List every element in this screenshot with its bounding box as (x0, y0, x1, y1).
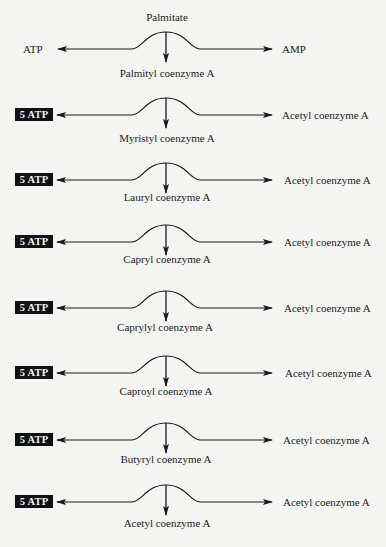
product-label: Acetyl coenzyme A (124, 517, 211, 529)
byproduct-label: Acetyl coenzyme A (283, 496, 370, 508)
product-label: Caproyl coenzyme A (120, 385, 213, 397)
reaction-arrow-group (57, 291, 272, 321)
atp-yield-badge: 5 ATP (15, 108, 53, 121)
atp-yield-badge: 5 ATP (15, 235, 53, 248)
reaction-arrow-group (58, 32, 272, 62)
byproduct-label: Acetyl coenzyme A (284, 174, 371, 186)
product-label: Butyryl coenzyme A (120, 453, 211, 465)
atp-yield-badge: 5 ATP (15, 173, 53, 186)
reaction-arrow-group (57, 163, 272, 193)
cofactor-label: ATP (23, 43, 43, 55)
atp-yield-badge: 5 ATP (15, 301, 53, 314)
reaction-arrow-group (57, 356, 272, 386)
product-label: Caprylyl coenzyme A (117, 321, 213, 333)
start-substrate-label: Palmitate (146, 11, 188, 23)
byproduct-label: Acetyl coenzyme A (285, 367, 372, 379)
reaction-arrow-group (57, 225, 272, 255)
byproduct-label: Acetyl coenzyme A (284, 302, 371, 314)
byproduct-label: Acetyl coenzyme A (283, 434, 370, 446)
byproduct-label: Acetyl coenzyme A (284, 236, 371, 248)
product-label: Myristyl coenzyme A (119, 132, 214, 144)
reaction-arrow-group (57, 98, 272, 128)
atp-yield-badge: 5 ATP (15, 366, 53, 379)
reaction-arrow-group (57, 485, 272, 515)
beta-oxidation-diagram: Palmitate ATP AMP Palmityl coenzyme A 5 … (0, 0, 386, 547)
product-label: Capryl coenzyme A (123, 253, 210, 265)
byproduct-label: AMP (282, 43, 306, 55)
product-label: Lauryl coenzyme A (124, 191, 211, 203)
atp-yield-badge: 5 ATP (15, 495, 53, 508)
product-label: Palmityl coenzyme A (120, 67, 215, 79)
byproduct-label: Acetyl coenzyme A (282, 109, 369, 121)
reaction-arrow-group (57, 423, 272, 453)
atp-yield-badge: 5 ATP (15, 433, 53, 446)
